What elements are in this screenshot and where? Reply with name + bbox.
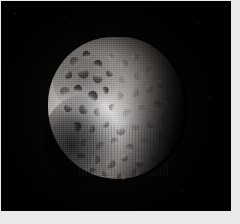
star-speck [181,191,182,192]
image-canvas [0,0,240,224]
star-speck [209,97,210,98]
star-speck [15,13,16,14]
photo-plate [1,1,231,211]
moon-body [48,37,184,179]
star-speck [37,187,38,188]
sunlit-limb [48,37,184,179]
star-speck [197,23,198,24]
star-speck [65,17,66,18]
